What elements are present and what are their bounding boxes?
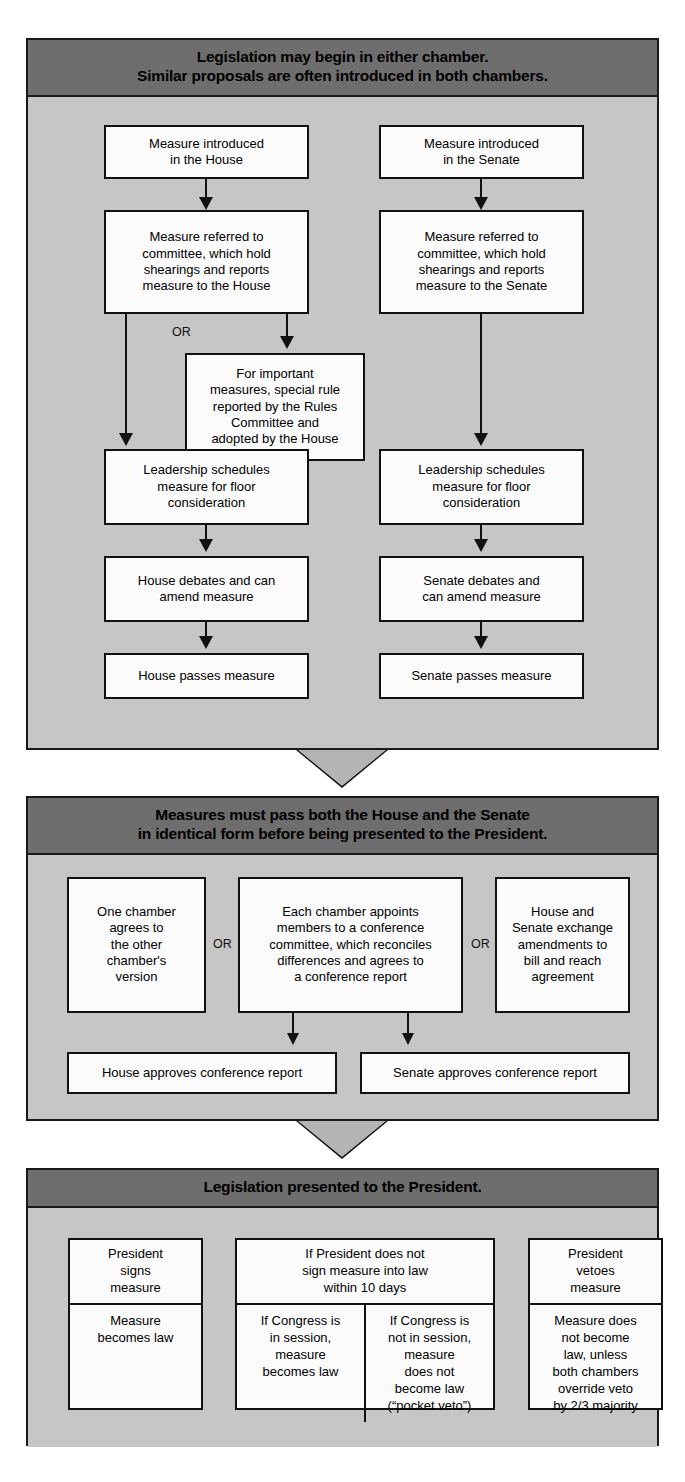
section-presidential-body: President signs measure Measure becomes … bbox=[28, 1208, 657, 1447]
node-president-vetoes[interactable]: President vetoes measure Measure does no… bbox=[528, 1238, 663, 1410]
section-reconciliation-header-line1: Measures must pass both the House and th… bbox=[34, 806, 651, 825]
arrow-senate-2-head bbox=[474, 433, 488, 446]
or-label-reconcile-2: OR bbox=[471, 937, 490, 951]
arrow-house-branch-rules-head bbox=[280, 336, 294, 349]
node-exchange-amendments[interactable]: House and Senate exchange amendments to … bbox=[495, 877, 630, 1013]
arrow-senate-4-head bbox=[474, 636, 488, 649]
arrow-house-1-head bbox=[199, 197, 213, 210]
or-label-reconcile-1: OR bbox=[213, 937, 232, 951]
section-presidential: Legislation presented to the President. … bbox=[26, 1168, 659, 1446]
node-house-introduced[interactable]: Measure introduced in the House bbox=[104, 125, 309, 179]
connector-chevron-2 bbox=[298, 1121, 386, 1157]
section-origination: Legislation may begin in either chamber.… bbox=[26, 38, 659, 750]
arrow-house-2-head bbox=[199, 539, 213, 552]
node-house-passes[interactable]: House passes measure bbox=[104, 653, 309, 699]
section-presidential-header: Legislation presented to the President. bbox=[28, 1170, 657, 1208]
or-label-house: OR bbox=[172, 325, 191, 339]
node-president-no-sign[interactable]: If President does not sign measure into … bbox=[235, 1238, 495, 1410]
node-veto-consequence: Measure does not become law, unless both… bbox=[530, 1305, 661, 1422]
node-senate-introduced[interactable]: Measure introduced in the Senate bbox=[379, 125, 584, 179]
section-origination-body: Measure introduced in the House Measure … bbox=[28, 97, 657, 747]
node-president-vetoes-bottom-wrap: Measure does not become law, unless both… bbox=[530, 1305, 661, 1422]
node-president-signs-bottom-wrap: Measure becomes law bbox=[70, 1305, 201, 1408]
node-president-signs-top: President signs measure bbox=[70, 1240, 201, 1305]
node-rules-committee[interactable]: For important measures, special rule rep… bbox=[185, 353, 365, 461]
section-origination-header-line1: Legislation may begin in either chamber. bbox=[34, 48, 651, 67]
node-senate-debates[interactable]: Senate debates and can amend measure bbox=[379, 556, 584, 622]
arrow-house-3-head bbox=[199, 636, 213, 649]
section-reconciliation: Measures must pass both the House and th… bbox=[26, 796, 659, 1121]
node-congress-not-in-session: If Congress is not in session, measure d… bbox=[364, 1305, 493, 1422]
section-origination-header: Legislation may begin in either chamber.… bbox=[28, 40, 657, 97]
flowchart-page: Legislation may begin in either chamber.… bbox=[0, 0, 685, 1482]
section-reconciliation-body: One chamber agrees to the other chamber'… bbox=[28, 855, 657, 1118]
arrow-conf-house-head bbox=[287, 1033, 299, 1045]
section-reconciliation-header: Measures must pass both the House and th… bbox=[28, 798, 657, 855]
section-reconciliation-header-line2: in identical form before being presented… bbox=[34, 825, 651, 844]
node-house-leadership[interactable]: Leadership schedules measure for floor c… bbox=[104, 449, 309, 525]
arrow-house-branch-left-head bbox=[119, 433, 133, 446]
node-senate-leadership[interactable]: Leadership schedules measure for floor c… bbox=[379, 449, 584, 525]
node-president-vetoes-top: President vetoes measure bbox=[530, 1240, 661, 1305]
node-house-committee[interactable]: Measure referred to committee, which hol… bbox=[104, 210, 309, 314]
node-president-signs-bottom: Measure becomes law bbox=[70, 1305, 201, 1408]
node-congress-in-session: If Congress is in session, measure becom… bbox=[237, 1305, 364, 1422]
arrow-conf-senate-head bbox=[402, 1033, 414, 1045]
node-president-no-sign-top: If President does not sign measure into … bbox=[237, 1240, 493, 1305]
section-origination-header-line2: Similar proposals are often introduced i… bbox=[34, 67, 651, 86]
node-president-signs[interactable]: President signs measure Measure becomes … bbox=[68, 1238, 203, 1410]
node-senate-passes[interactable]: Senate passes measure bbox=[379, 653, 584, 699]
arrow-house-branch-left-line bbox=[125, 314, 127, 438]
node-conference-committee[interactable]: Each chamber appoints members to a confe… bbox=[238, 877, 463, 1013]
node-house-debates[interactable]: House debates and can amend measure bbox=[104, 556, 309, 622]
node-senate-committee[interactable]: Measure referred to committee, which hol… bbox=[379, 210, 584, 314]
section-presidential-header-line1: Legislation presented to the President. bbox=[34, 1178, 651, 1197]
node-house-approves-report[interactable]: House approves conference report bbox=[67, 1052, 337, 1094]
node-senate-approves-report[interactable]: Senate approves conference report bbox=[360, 1052, 630, 1094]
node-one-chamber-agrees[interactable]: One chamber agrees to the other chamber'… bbox=[67, 877, 206, 1013]
node-president-no-sign-bottom-wrap: If Congress is in session, measure becom… bbox=[237, 1305, 493, 1422]
arrow-senate-2-line bbox=[480, 314, 482, 438]
arrow-senate-1-head bbox=[474, 197, 488, 210]
arrow-senate-3-head bbox=[474, 539, 488, 552]
connector-chevron-1 bbox=[298, 750, 386, 786]
